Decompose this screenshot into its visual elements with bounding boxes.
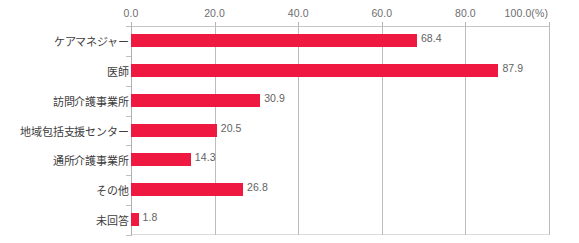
bar-0 <box>131 34 417 47</box>
bar-row: 87.9 <box>131 56 549 86</box>
bar-row: 68.4 <box>131 26 549 56</box>
y-axis-category-labels: ケアマネジャー医師訪問介護事業所地域包括支援センター通所介護事業所その他未回答 <box>0 26 129 235</box>
y-tick-7 <box>126 235 132 236</box>
bar-5 <box>131 183 243 196</box>
x-tick-label-0.0: 0.0 <box>124 7 139 19</box>
bar-4 <box>131 153 191 166</box>
bar-chart: 0.020.040.060.080.0100.0(%) ケアマネジャー医師訪問介… <box>0 0 579 243</box>
bar-value-label-3: 20.5 <box>217 122 242 134</box>
gridline-100.0 <box>549 26 550 235</box>
bar-value-label-6: 1.8 <box>139 211 158 223</box>
x-tick-label-20.0: 20.0 <box>204 7 225 19</box>
category-label-3: 地域包括支援センター <box>3 123 129 139</box>
category-label-1: 医師 <box>3 63 129 79</box>
bar-row: 30.9 <box>131 86 549 116</box>
bar-3 <box>131 124 217 137</box>
category-label-0: ケアマネジャー <box>3 33 129 49</box>
category-label-4: 通所介護事業所 <box>3 152 129 168</box>
x-tick-label-80.0: 80.0 <box>455 7 476 19</box>
bar-1 <box>131 64 498 77</box>
bar-value-label-1: 87.9 <box>498 62 523 74</box>
x-tick-label-60.0: 60.0 <box>371 7 392 19</box>
bar-value-label-5: 26.8 <box>243 181 268 193</box>
bar-value-label-4: 14.3 <box>191 151 216 163</box>
bar-2 <box>131 94 260 107</box>
plot-area: 68.487.930.920.514.326.81.8 <box>131 26 549 235</box>
x-tick-label-100.0: 100.0(%) <box>505 7 549 19</box>
bar-value-label-2: 30.9 <box>260 92 285 104</box>
bar-row: 20.5 <box>131 116 549 146</box>
category-label-6: 未回答 <box>3 212 129 228</box>
bar-6 <box>131 213 139 226</box>
bar-row: 14.3 <box>131 145 549 175</box>
bar-row: 26.8 <box>131 175 549 205</box>
category-label-2: 訪問介護事業所 <box>3 93 129 109</box>
bar-value-label-0: 68.4 <box>417 32 442 44</box>
category-label-5: その他 <box>3 182 129 198</box>
x-tick-label-40.0: 40.0 <box>288 7 309 19</box>
bar-row: 1.8 <box>131 205 549 235</box>
